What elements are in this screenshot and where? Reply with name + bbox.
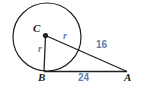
label-length-16: 16: [96, 40, 107, 50]
label-length-24: 24: [78, 73, 89, 83]
label-point-a: A: [124, 72, 131, 83]
hypotenuse-ca-line: [46, 36, 128, 72]
label-radius-vertical: r: [38, 44, 42, 54]
label-point-b: B: [38, 72, 45, 83]
radius-cb-line: [44, 36, 46, 72]
geometry-figure: C B A r r 16 24: [0, 0, 146, 92]
label-radius-slanted: r: [63, 31, 67, 41]
label-center-c: C: [33, 23, 40, 34]
center-point-dot: [43, 33, 48, 38]
